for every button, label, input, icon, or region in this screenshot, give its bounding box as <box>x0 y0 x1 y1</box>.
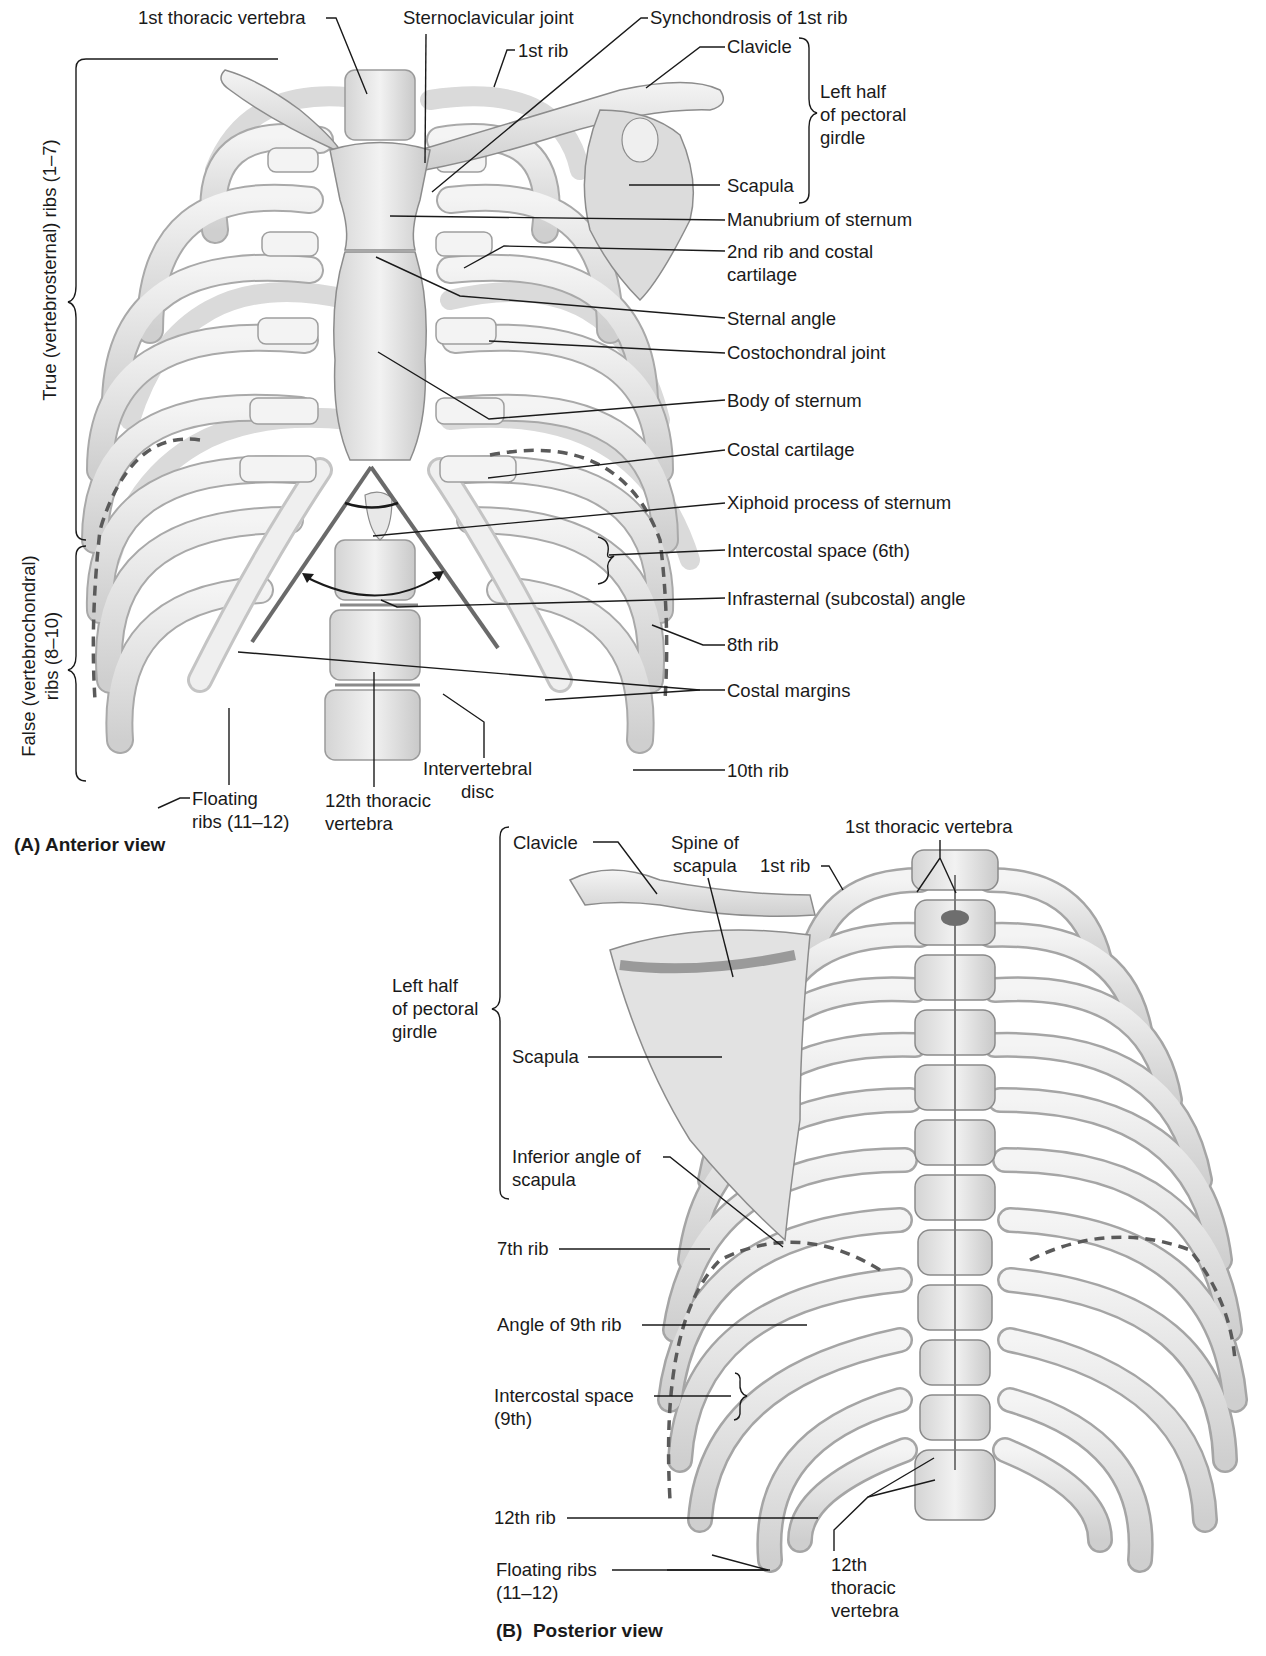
label-false-ribs: False (vertebrochondral) ribs (8–10) <box>17 540 63 772</box>
label-body-of-sternum: Body of sternum <box>727 389 862 412</box>
label-intercostal-space-9th: Intercostal space (9th) <box>494 1384 634 1430</box>
caption-anterior-view: (A) Anterior view <box>14 834 165 856</box>
label-1st-rib-posterior: 1st rib <box>760 854 810 877</box>
label-12th-rib: 12th rib <box>494 1506 556 1529</box>
label-scapula-posterior: Scapula <box>512 1045 579 1068</box>
label-sternoclavicular-joint: Sternoclavicular joint <box>403 6 574 29</box>
label-costal-margins: Costal margins <box>727 679 850 702</box>
label-intercostal-space-6th: Intercostal space (6th) <box>727 539 910 562</box>
label-left-half-pectoral-girdle-anterior: Left half of pectoral girdle <box>820 80 906 149</box>
label-costochondral-joint: Costochondral joint <box>727 341 885 364</box>
label-sternal-angle: Sternal angle <box>727 307 836 330</box>
label-1st-thoracic-vertebra-posterior: 1st thoracic vertebra <box>845 815 1013 838</box>
anterior-view-artwork <box>93 70 723 760</box>
label-xiphoid-process: Xiphoid process of sternum <box>727 491 951 514</box>
label-angle-of-9th-rib: Angle of 9th rib <box>497 1313 621 1336</box>
label-scapula-anterior: Scapula <box>727 174 794 197</box>
label-1st-thoracic-vertebra-anterior: 1st thoracic vertebra <box>138 6 306 29</box>
label-spine-of-scapula: Spine of scapula <box>671 831 739 877</box>
label-infrasternal-angle: Infrasternal (subcostal) angle <box>727 587 966 610</box>
label-floating-ribs-posterior: Floating ribs (11–12) <box>496 1558 597 1604</box>
label-12th-thoracic-vertebra-posterior: 12th thoracic vertebra <box>831 1553 899 1622</box>
label-7th-rib: 7th rib <box>497 1237 548 1260</box>
label-12th-thoracic-vertebra-anterior: 12th thoracic vertebra <box>325 789 431 835</box>
caption-posterior-view: (B) Posterior view <box>496 1620 663 1642</box>
posterior-view-artwork <box>570 850 1235 1560</box>
label-true-ribs: True (vertebrosternal) ribs (1–7) <box>38 70 61 470</box>
label-inferior-angle-of-scapula: Inferior angle of scapula <box>512 1145 641 1191</box>
label-clavicle-posterior: Clavicle <box>513 831 578 854</box>
label-2nd-rib-costal-cartilage: 2nd rib and costal cartilage <box>727 240 873 286</box>
thoracic-cage-figure: 1st thoracic vertebra Sternoclavicular j… <box>0 0 1266 1656</box>
label-10th-rib: 10th rib <box>727 759 789 782</box>
label-8th-rib: 8th rib <box>727 633 778 656</box>
label-1st-rib-anterior: 1st rib <box>518 39 568 62</box>
label-clavicle-anterior: Clavicle <box>727 35 792 58</box>
label-synchondrosis-1st-rib: Synchondrosis of 1st rib <box>650 6 847 29</box>
label-left-half-pectoral-girdle-posterior: Left half of pectoral girdle <box>392 974 478 1043</box>
label-floating-ribs-anterior: Floating ribs (11–12) <box>192 787 289 833</box>
label-costal-cartilage: Costal cartilage <box>727 438 855 461</box>
label-intervertebral-disc: Intervertebral disc <box>423 757 532 803</box>
label-manubrium-of-sternum: Manubrium of sternum <box>727 208 912 231</box>
